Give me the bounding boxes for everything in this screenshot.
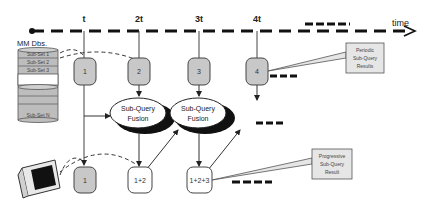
subset-2-label: Sub-Set 2 <box>27 59 49 65</box>
callout-progressive: Progressive Sub-Query Result <box>212 149 352 180</box>
svg-text:Sub-Query: Sub-Query <box>320 161 345 167</box>
svg-text:1+2: 1+2 <box>134 177 146 184</box>
subset-1-label: Sub-Set 1 <box>27 51 49 57</box>
tick-2t: 2t <box>135 14 143 24</box>
monitor-icon <box>18 160 60 198</box>
time-label: time <box>392 18 409 28</box>
svg-text:1: 1 <box>83 177 87 184</box>
fusion-node-1: Sub-Query Fusion <box>110 98 175 134</box>
svg-text:4: 4 <box>255 68 259 75</box>
callout-periodic: Periodic Sub-Query Results <box>268 43 384 73</box>
svg-text:3: 3 <box>197 68 201 75</box>
svg-text:Sub-Query: Sub-Query <box>121 105 155 113</box>
periodic-node-4: 4 <box>246 58 268 85</box>
timeline: time t 2t 3t 4t <box>29 14 415 36</box>
database-title: MM Dbs. <box>17 39 47 48</box>
time-verticals <box>84 31 257 165</box>
db-to-node2-link <box>60 52 137 60</box>
svg-text:2: 2 <box>137 68 141 75</box>
svg-text:Periodic: Periodic <box>356 47 375 53</box>
subset-n-label: Sub-Set N <box>26 112 49 118</box>
svg-text:Result: Result <box>325 169 340 175</box>
periodic-node-3: 3 <box>188 58 210 85</box>
svg-text:Fusion: Fusion <box>187 115 208 122</box>
svg-text:1: 1 <box>83 68 87 75</box>
monitor-to-node12-link <box>60 154 137 172</box>
tick-3t: 3t <box>195 14 203 24</box>
subset-3-label: Sub-Set 3 <box>27 67 49 73</box>
mm-database-stack: MM Dbs. Sub-Set 1 Sub-Set 2 Sub-Set 3 Su… <box>17 39 58 123</box>
svg-text:Sub-Query: Sub-Query <box>353 55 378 61</box>
svg-text:1+2+3: 1+2+3 <box>190 177 210 184</box>
periodic-node-2: 2 <box>128 58 150 85</box>
svg-text:Results: Results <box>357 63 374 69</box>
diagram-canvas: time t 2t 3t 4t MM Dbs. Sub-Set 1 Sub-Se… <box>0 0 434 210</box>
svg-text:Sub-Query: Sub-Query <box>181 105 215 113</box>
tick-4t: 4t <box>253 14 261 24</box>
svg-text:Progressive: Progressive <box>319 153 346 159</box>
svg-text:Fusion: Fusion <box>127 115 148 122</box>
progressive-node-1-2-3: 1+2+3 <box>187 167 212 193</box>
periodic-node-1: 1 <box>74 58 96 85</box>
tick-t: t <box>83 14 86 24</box>
progressive-node-1-2: 1+2 <box>128 167 152 193</box>
fusion-node-2: Sub-Query Fusion <box>170 98 235 134</box>
progressive-node-1: 1 <box>74 167 96 193</box>
